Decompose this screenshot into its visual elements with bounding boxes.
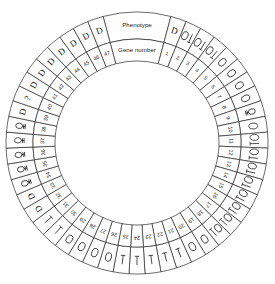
gene-number-label-10: 10 (227, 126, 234, 133)
wheel-svg: PhenotypeGene number1D234567891011121314… (0, 0, 275, 284)
gene-number-label-25: 25 (122, 234, 129, 241)
gene-number-label-23: 23 (145, 234, 152, 241)
gene-number-label-24: 24 (134, 235, 140, 241)
gene-number-label-36: 36 (40, 149, 47, 156)
phenotype-header-label: Phenotype (122, 21, 152, 28)
gene-number-label-37: 37 (39, 138, 45, 144)
gene-number-header-label: Gene number (118, 46, 156, 53)
gene-number-label-38: 38 (40, 126, 47, 133)
gene-phenotype-wheel: PhenotypeGene number1D234567891011121314… (0, 0, 275, 284)
gene-number-label-13: 13 (226, 160, 233, 167)
gene-number-label-11: 11 (228, 138, 234, 144)
phenotype-cell (6, 132, 33, 148)
gene-number-label-12: 12 (228, 149, 235, 156)
